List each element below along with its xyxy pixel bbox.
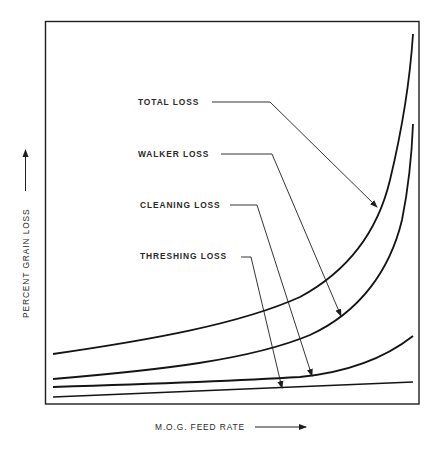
- y-axis-label: PERCENT GRAIN LOSS: [21, 208, 31, 318]
- walker-loss-curve: [53, 124, 413, 379]
- total-loss-curve: [53, 34, 413, 354]
- total-loss-label: TOTAL LOSS: [138, 97, 199, 107]
- cleaning-loss-label: CLEANING LOSS: [140, 200, 221, 210]
- walker-loss-leader-arrow: [221, 154, 341, 316]
- total-loss-leader-arrow: [212, 102, 377, 207]
- cleaning-loss-annotation: CLEANING LOSS: [140, 200, 312, 376]
- y-axis-label-group: PERCENT GRAIN LOSS: [21, 150, 31, 318]
- threshing-loss-label: THRESHING LOSS: [140, 251, 227, 261]
- series-layer: [53, 34, 413, 397]
- threshing-loss-leader-arrow: [241, 257, 282, 388]
- chart-canvas: TOTAL LOSS WALKER LOSS CLEANING LOSS THR…: [0, 0, 438, 449]
- walker-loss-label: WALKER LOSS: [138, 149, 209, 159]
- cleaning-loss-curve: [53, 336, 413, 387]
- threshing-loss-line: [53, 382, 413, 397]
- cleaning-loss-leader-arrow: [230, 205, 312, 376]
- x-axis-label-group: M.O.G. FEED RATE: [155, 422, 306, 432]
- x-axis-label: M.O.G. FEED RATE: [155, 422, 245, 432]
